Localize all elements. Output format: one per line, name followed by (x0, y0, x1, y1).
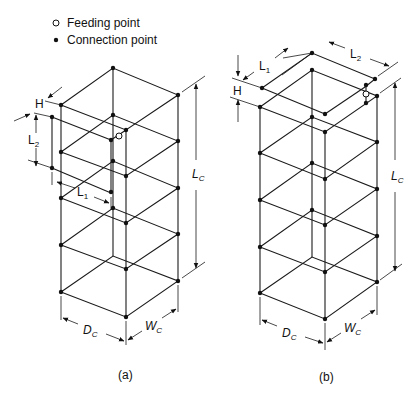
dim-b-L2: L2 (350, 47, 362, 63)
figure-a: H L2 L1 LC DC WC (14, 66, 205, 382)
dim-a-Wc: WC (145, 319, 162, 335)
connection-point-legend-icon (54, 38, 58, 42)
figure-b: H L1 L2 LC DC WC (230, 42, 404, 384)
connection-points-b (258, 51, 379, 321)
dim-b-Lc: LC (391, 169, 404, 185)
dim-a-H: H (35, 97, 44, 111)
dim-b-Dc: DC (282, 326, 297, 342)
dim-a-Dc: DC (83, 323, 98, 339)
dim-a-L1: L1 (77, 185, 89, 201)
legend: Feeding point Connection point (53, 16, 158, 47)
caption-b: (b) (319, 370, 334, 384)
feeding-point-a (116, 133, 122, 139)
dim-b-Wc: WC (344, 321, 361, 337)
legend-connection-label: Connection point (67, 33, 158, 47)
legend-feeding-label: Feeding point (67, 16, 140, 30)
dim-b-H: H (233, 84, 242, 98)
dim-a-L2: L2 (28, 133, 40, 149)
dim-b-L1: L1 (259, 59, 271, 75)
dim-a-Lc: LC (192, 167, 205, 183)
caption-a: (a) (118, 368, 133, 382)
feeding-point-legend-icon (53, 20, 59, 26)
feeding-point-b (363, 91, 369, 97)
antenna-diagram: Feeding point Connection point (0, 0, 413, 396)
